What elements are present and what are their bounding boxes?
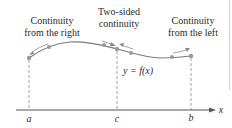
label-line: from the right [16,28,88,38]
x-axis-arrow-icon [209,108,216,113]
tick-label-c: c [113,114,121,124]
tick-label-b: b [187,113,195,123]
right-border-line [229,0,230,90]
arrow-from-left-b [173,49,188,53]
label-line: Two-sided [90,7,148,17]
label-continuity-left: Continuity from the left [158,16,228,38]
label-line: continuity [90,19,148,29]
label-continuity-right: Continuity from the right [16,16,88,38]
tick-label-a: a [25,114,33,124]
function-label: y = f(x) [123,66,153,76]
point-left-of-b [170,55,174,59]
point-right-of-c [129,51,133,55]
point-b [189,54,193,58]
point-a [27,56,31,60]
function-curve [29,42,191,58]
label-line: Continuity [158,16,228,26]
label-line: from the left [158,28,228,38]
point-c [115,47,119,51]
x-axis-label: x [217,105,225,115]
arrowhead-icon [119,43,124,47]
label-two-sided: Two-sided continuity [90,7,148,29]
label-line: Continuity [16,16,88,26]
point-left-of-c [102,43,106,47]
arrowhead-icon [110,42,116,46]
point-right-of-a [47,45,51,49]
